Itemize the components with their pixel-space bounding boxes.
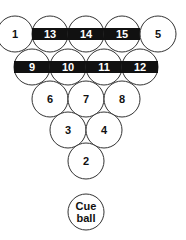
- billiard-rack-diagram: 113141559101112678342 Cue ball: [0, 0, 186, 240]
- ball-4: 4: [86, 112, 122, 148]
- ball-2: 2: [68, 143, 104, 179]
- ball-number: 12: [134, 61, 146, 73]
- ball-15: 15: [104, 16, 140, 52]
- ball-number: 5: [155, 28, 161, 40]
- ball-number: 4: [101, 124, 108, 136]
- ball-10: 10: [50, 49, 86, 85]
- ball-number: 7: [83, 93, 89, 105]
- ball-13: 13: [32, 16, 68, 52]
- cue-ball: Cue ball: [68, 194, 104, 230]
- ball-number: 10: [62, 61, 74, 73]
- ball-number: 15: [116, 28, 128, 40]
- ball-11: 11: [86, 49, 122, 85]
- ball-9: 9: [14, 49, 50, 85]
- ball-3: 3: [50, 112, 86, 148]
- ball-6: 6: [32, 81, 68, 117]
- ball-1: 1: [0, 16, 33, 52]
- ball-number: 13: [44, 28, 56, 40]
- rack-balls: 113141559101112678342: [0, 16, 176, 179]
- ball-number: 8: [119, 93, 125, 105]
- ball-number: 6: [47, 93, 53, 105]
- ball-number: 14: [80, 28, 93, 40]
- ball-number: 1: [12, 28, 18, 40]
- ball-number: 2: [83, 155, 89, 167]
- ball-12: 12: [122, 49, 158, 85]
- cue-ball-label-line2: ball: [77, 212, 96, 224]
- ball-number: 3: [65, 124, 71, 136]
- ball-8: 8: [104, 81, 140, 117]
- ball-5: 5: [140, 16, 176, 52]
- cue-ball-label-line1: Cue: [76, 200, 97, 212]
- ball-number: 9: [29, 61, 35, 73]
- ball-14: 14: [68, 16, 104, 52]
- ball-7: 7: [68, 81, 104, 117]
- ball-number: 11: [98, 61, 110, 73]
